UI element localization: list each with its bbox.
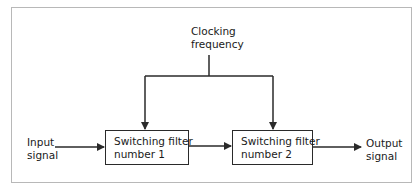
clocking-frequency-label: Clocking frequency bbox=[191, 25, 244, 51]
input-label-line2: signal bbox=[27, 149, 58, 162]
switching-filter-1-block: Switching filter number 1 bbox=[105, 130, 189, 165]
block1-line2: number 1 bbox=[114, 148, 188, 161]
block1-line1: Switching filter bbox=[114, 135, 188, 148]
clock-label-line2: frequency bbox=[191, 38, 244, 51]
input-signal-label: Input signal bbox=[27, 136, 58, 162]
clock-label-line1: Clocking bbox=[191, 25, 244, 38]
block2-line2: number 2 bbox=[241, 148, 312, 161]
output-signal-label: Output signal bbox=[366, 137, 402, 163]
switching-filter-2-block: Switching filter number 2 bbox=[232, 130, 313, 165]
output-label-line2: signal bbox=[366, 150, 402, 163]
input-label-line1: Input bbox=[27, 136, 58, 149]
block2-line1: Switching filter bbox=[241, 135, 312, 148]
output-label-line1: Output bbox=[366, 137, 402, 150]
